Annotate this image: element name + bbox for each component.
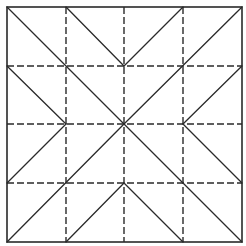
diagonal-line xyxy=(183,124,242,183)
diagonal-line xyxy=(66,7,124,66)
diagonal-line xyxy=(124,7,183,66)
diagonal-line xyxy=(124,183,183,242)
diagonal-line xyxy=(66,183,124,242)
diagonal-line xyxy=(7,124,66,183)
diagonal-line xyxy=(7,66,66,124)
fold-diagram xyxy=(0,0,246,246)
diagonal-line xyxy=(7,7,124,124)
diagonal-line xyxy=(183,66,242,124)
